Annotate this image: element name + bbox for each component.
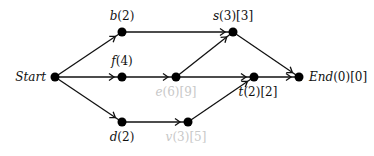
node-label-d: d(2)	[110, 130, 135, 144]
edge-start-d	[55, 77, 122, 122]
node-e	[172, 73, 181, 82]
node-end	[295, 73, 304, 82]
node-t	[250, 73, 259, 82]
edge-e-s	[176, 32, 233, 77]
node-f	[118, 73, 127, 82]
node-label-t: t(2)[2]	[239, 85, 278, 99]
node-v	[184, 118, 193, 127]
node-label-s: s(3)[3]	[213, 9, 253, 23]
graph-diagram: Startb(2)f(4)d(2)s(3)[3]e(6)[9]t(2)[2]v(…	[0, 0, 374, 156]
node-s	[229, 28, 238, 37]
node-label-start: Start	[15, 70, 46, 84]
edge-v-t	[188, 77, 254, 122]
node-d	[118, 118, 127, 127]
node-b	[118, 28, 127, 37]
node-label-f: f(4)	[110, 54, 132, 68]
node-start	[51, 73, 60, 82]
edge-s-end	[233, 32, 299, 77]
node-label-end: End(0)[0]	[308, 70, 367, 84]
node-label-v: v(3)[5]	[166, 130, 207, 144]
node-label-b: b(2)	[110, 9, 135, 23]
node-label-e: e(6)[9]	[155, 85, 196, 99]
